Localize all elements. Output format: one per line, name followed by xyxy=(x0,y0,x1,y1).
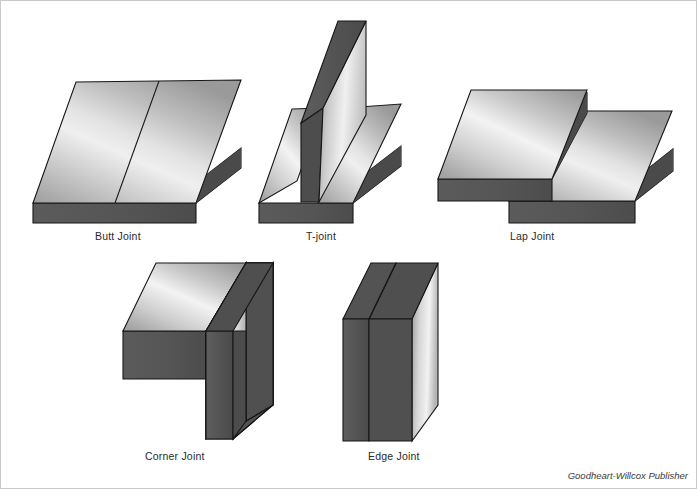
welding-joints-illustration xyxy=(1,1,697,489)
butt-joint-label: Butt Joint xyxy=(95,230,141,242)
lap-joint-right-plate-front-edge xyxy=(509,201,635,223)
t-joint-base-front-edge xyxy=(259,203,353,223)
corner-joint-leg-dark-face xyxy=(206,331,233,439)
lap-joint-left-plate-front-edge xyxy=(438,179,552,201)
corner-joint-label: Corner Joint xyxy=(145,450,205,462)
butt-joint-front-edge xyxy=(33,203,196,223)
lap-joint-shape xyxy=(438,90,673,223)
butt-joint-shape xyxy=(33,80,241,223)
t-joint-label: T-joint xyxy=(306,230,336,242)
edge-joint-label: Edge Joint xyxy=(368,450,420,462)
corner-joint-leg-dark-face-2 xyxy=(233,331,246,439)
edge-joint-plate2-front-face xyxy=(369,319,412,441)
welding-joints-figure: Butt Joint T-joint Lap Joint Corner Join… xyxy=(0,0,697,489)
t-joint-shape xyxy=(259,21,401,223)
edge-joint-plate1-front-face xyxy=(343,319,369,441)
corner-joint-horizontal-front-edge xyxy=(123,331,206,379)
publisher-credit: Goodheart-Willcox Publisher xyxy=(568,470,688,481)
edge-joint-shape xyxy=(343,263,438,441)
lap-joint-label: Lap Joint xyxy=(510,230,554,242)
